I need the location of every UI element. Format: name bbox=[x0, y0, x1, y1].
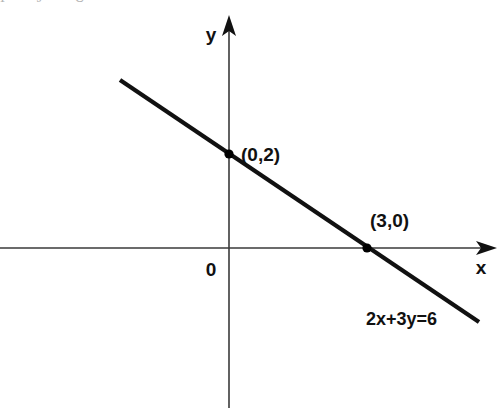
line-2x-3y-6 bbox=[120, 80, 479, 322]
coordinate-plane: y x 0 (0,2) (3,0) 2x+3y=6 bbox=[0, 0, 503, 408]
origin-label: 0 bbox=[206, 259, 217, 280]
point-label-x-intercept: (3,0) bbox=[370, 210, 409, 231]
point-marker-x-intercept bbox=[362, 243, 371, 252]
graph-figure: I J U y x 0 (0,2) (3,0) 2x+3y=6 bbox=[0, 0, 503, 408]
y-axis-label: y bbox=[206, 24, 217, 45]
line-equation-label: 2x+3y=6 bbox=[366, 309, 437, 329]
point-label-y-intercept: (0,2) bbox=[241, 144, 280, 165]
point-marker-y-intercept bbox=[224, 149, 233, 158]
x-axis-label: x bbox=[476, 257, 487, 278]
